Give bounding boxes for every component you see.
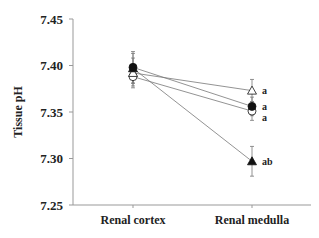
chart: 7.257.307.357.407.45 Tissue pH Renal cor… — [0, 0, 319, 238]
y-tick-label: 7.30 — [40, 151, 63, 166]
series-lines — [133, 67, 252, 161]
data-point-filled-triangle — [248, 157, 257, 165]
series-line-filled-triangle — [133, 68, 252, 161]
data-point-filled-circle — [248, 102, 256, 110]
annotation-open-circle: a — [262, 112, 267, 123]
y-axis-title: Tissue pH — [11, 86, 25, 138]
annotation-open-triangle: a — [262, 85, 267, 96]
x-axis-categories: Renal cortexRenal medulla — [101, 205, 290, 227]
y-tick-label: 7.40 — [40, 58, 63, 73]
annotation-filled-circle: a — [262, 101, 267, 112]
series-line-filled-circle — [133, 67, 252, 106]
annotation-filled-triangle: ab — [262, 156, 273, 167]
x-tick-label: Renal cortex — [101, 213, 166, 227]
annotations: aaaab — [262, 85, 273, 167]
y-tick-label: 7.45 — [40, 12, 63, 27]
x-tick-label: Renal medulla — [215, 213, 289, 227]
y-tick-label: 7.25 — [40, 198, 63, 213]
y-tick-label: 7.35 — [40, 105, 63, 120]
y-axis-ticks: 7.257.307.357.407.45 — [40, 12, 73, 213]
error-bars — [131, 52, 254, 177]
